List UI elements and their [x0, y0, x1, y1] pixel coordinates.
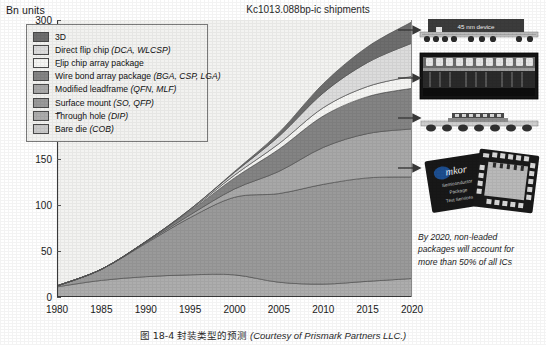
photo-column: 45 nm device [414, 8, 546, 223]
legend-item: Wire bond array package (BGA, CSP, LGA) [33, 70, 201, 83]
legend-label: 3D [55, 32, 66, 42]
legend-label: Direct flip chip (DCA, WLCSP) [55, 45, 171, 55]
legend-item: 3D [33, 30, 201, 43]
legend-label: Surface mount (SO, QFP) [55, 98, 154, 108]
annotation-line-1: By 2020, non-leaded [418, 231, 544, 243]
legend-swatch [33, 71, 49, 81]
x-axis-tick-label: 2005 [268, 304, 290, 315]
y-axis-tick-mark [57, 205, 61, 206]
x-axis-tick-label: 2015 [357, 304, 379, 315]
x-axis-tick-label: 2000 [223, 304, 245, 315]
legend-label: Through hole (DIP) [55, 111, 128, 121]
y-axis-tick-label: 50 [24, 245, 52, 256]
legend-label: Wire bond array package (BGA, CSP, LGA) [55, 71, 221, 81]
photo-45nm-label: 45 nm device [458, 23, 495, 30]
photo-package-cross-section-micrograph [414, 52, 544, 100]
legend-swatch [33, 111, 49, 121]
legend-label: Flip chip array package [55, 58, 144, 68]
legend-label: Bare die (COB) [55, 124, 114, 134]
leader-arrows [396, 8, 422, 223]
legend-item: Direct flip chip (DCA, WLCSP) [33, 43, 201, 56]
x-axis-tick-label: 1985 [90, 304, 112, 315]
legend-swatch [33, 98, 49, 108]
y-axis-tick-mark [57, 297, 61, 298]
x-axis-tick-label: 1980 [46, 304, 68, 315]
y-axis-tick-mark [57, 20, 61, 21]
x-axis-tick-label: 2020 [401, 304, 423, 315]
caption-chinese: 图 18-4 封装类型的预测 [140, 330, 248, 341]
y-axis-tick-label: 150 [24, 153, 52, 164]
chart-annotation: By 2020, non-leaded packages will accoun… [418, 231, 544, 268]
x-axis-tick-label: 1995 [179, 304, 201, 315]
figure-caption: 图 18-4 封装类型的预测 (Courtesy of Prismark Par… [0, 328, 546, 342]
annotation-line-3: more than 50% of all ICs [418, 256, 544, 268]
photo-bga-substrate-cross-section [414, 104, 544, 138]
legend-swatch [33, 45, 49, 55]
legend-item: Surface mount (SO, QFP) [33, 96, 201, 109]
legend-swatch [33, 58, 49, 68]
y-axis-tick-mark [57, 112, 61, 113]
photo-45nm-device-cross-section: 45 nm device [414, 8, 544, 48]
legend-swatch [33, 84, 49, 94]
y-axis-tick-label: 0 [24, 292, 52, 303]
x-axis: 198019851990199520002005201020152020 [57, 300, 412, 316]
legend-label: Modified leadframe (QFN, MLF) [55, 84, 176, 94]
y-axis-tick-label: 100 [24, 199, 52, 210]
x-axis-tick-label: 2010 [312, 304, 334, 315]
y-axis-tick-mark [57, 66, 61, 67]
legend-swatch [33, 32, 49, 42]
y-axis-tick-mark [57, 159, 61, 160]
annotation-line-2: packages will account for [418, 243, 544, 255]
chart-legend: 3DDirect flip chip (DCA, WLCSP)Flip chip… [26, 24, 208, 142]
y-axis-tick-mark [57, 251, 61, 252]
legend-item: Through hole (DIP) [33, 109, 201, 122]
legend-item: Bare die (COB) [33, 122, 201, 135]
photo-amkor-qfn-packages: mkor Semiconductor Package Test Services [414, 140, 544, 220]
legend-item: Flip chip array package [33, 56, 201, 69]
x-axis-tick-label: 1990 [135, 304, 157, 315]
legend-swatch [33, 124, 49, 134]
legend-item: Modified leadframe (QFN, MLF) [33, 83, 201, 96]
figure-page: Bn units Kc1013.088bp-ic shipments 05010… [0, 0, 546, 345]
chart-figure: Bn units Kc1013.088bp-ic shipments 05010… [0, 0, 546, 327]
caption-english: (Courtesy of Prismark Partners LLC.) [250, 330, 406, 341]
